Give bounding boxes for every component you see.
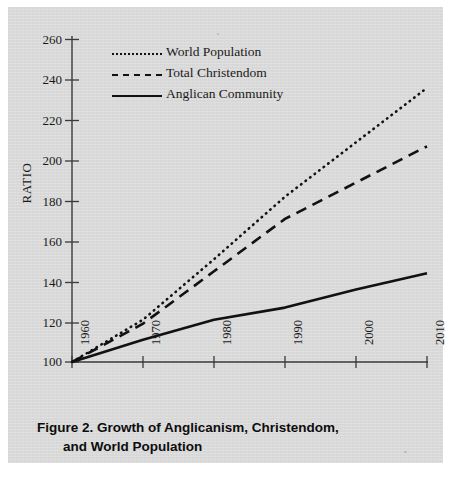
figure-caption-line-1: Figure 2. Growth of Anglicanism, Christe… [37, 420, 339, 435]
legend-label: Anglican Community [166, 86, 283, 102]
figure-caption: Figure 2. Growth of Anglicanism, Christe… [37, 418, 427, 456]
x-tick-label: 2000 [362, 320, 377, 366]
figure-container: RATIO 260 240 220 200 180 160 140 120 10… [0, 0, 457, 477]
legend-item-total-christendom: Total Christendom [112, 65, 332, 86]
x-tick-label: 1960 [78, 320, 93, 366]
x-tick-label: 2010 [433, 320, 448, 366]
legend-swatch-dashed-line-icon [112, 74, 162, 80]
x-tick-label: 1970 [149, 320, 164, 366]
x-tick-label: 1980 [220, 320, 235, 366]
x-tick-label: 1990 [291, 320, 306, 366]
chart-legend: World Population Total Christendom Angli… [112, 44, 332, 107]
figure-caption-line-2: and World Population [37, 437, 427, 456]
legend-label: Total Christendom [166, 65, 267, 81]
legend-swatch-dotted-line-icon [112, 53, 162, 59]
legend-item-anglican-community: Anglican Community [112, 86, 332, 107]
legend-swatch-solid-line-icon [112, 95, 162, 101]
legend-label: World Population [166, 44, 261, 60]
legend-item-world-population: World Population [112, 44, 332, 65]
